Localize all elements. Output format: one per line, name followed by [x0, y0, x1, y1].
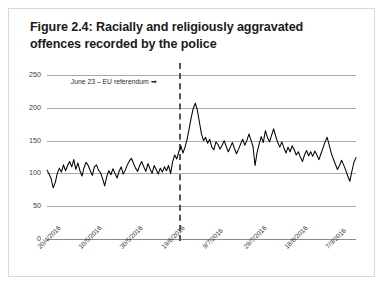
figure-panel: Figure 2.4: Racially and religiously agg… — [8, 8, 375, 277]
series-polyline — [47, 103, 356, 188]
page-title: Figure 2.4: Racially and religiously agg… — [30, 19, 355, 52]
chart-plot-area: 050100150200250 20/4/201610/5/201630/5/2… — [9, 61, 376, 278]
series-line-chart — [9, 61, 376, 278]
